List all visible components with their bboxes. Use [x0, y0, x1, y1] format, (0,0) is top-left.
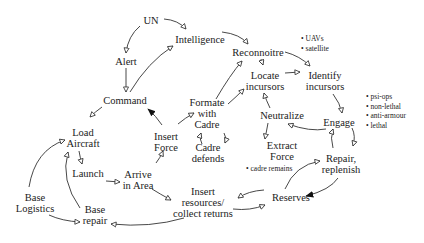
- edge-baserepair-load: [66, 152, 80, 208]
- node-repair-replenish: Repair, replenish: [322, 153, 361, 175]
- node-cadre-line2: defends: [192, 153, 225, 164]
- edge-un-intelligence: [164, 19, 186, 29]
- node-logistics-line1: Base: [16, 192, 55, 203]
- edge-formate-reconnoitre: [216, 61, 242, 99]
- edge-neutralize-extract: [265, 123, 268, 139]
- note-extract: • cadre remains: [246, 164, 292, 174]
- note-item: • lethal: [366, 121, 406, 131]
- edge-formate-locate: [228, 89, 244, 104]
- node-base-repair: Base repair: [83, 204, 107, 226]
- node-insert-resources: Insert resources/ collect returns: [173, 186, 233, 219]
- edge-command-intelligence: [130, 46, 173, 92]
- node-arrive-line2: in Area: [123, 180, 154, 191]
- node-reconnoitre: Reconnoitre: [232, 47, 283, 58]
- edge-neutralize-locate: [264, 93, 270, 108]
- node-load-line2: Aircraft: [66, 138, 99, 149]
- node-repair-line1: Repair,: [322, 153, 361, 164]
- edge-un-alert: [126, 26, 140, 53]
- node-formate-line3: Cadre: [190, 119, 225, 130]
- note-engage-options: • psi-ops • non-lethal • anti-armour • l…: [366, 92, 406, 130]
- node-repair-line2: replenish: [322, 164, 361, 175]
- edge-identify-engage: [333, 94, 342, 113]
- edge-engage-repair: [352, 128, 354, 146]
- node-neutralize: Neutralize: [260, 110, 304, 121]
- note-item: • satellite: [301, 44, 329, 54]
- node-load-line1: Load: [66, 127, 99, 138]
- node-insert-force-line1: Insert: [154, 131, 178, 142]
- node-extract-line1: Extract: [267, 140, 297, 151]
- edge-launch-arrive: [106, 181, 120, 182]
- edge-engage-neutralize: [288, 124, 326, 130]
- node-insert-force: Insert Force: [154, 131, 178, 153]
- edge-insert-resources-base-repair: [111, 218, 184, 225]
- edge-insertforce-command: [148, 109, 162, 125]
- node-arrive-in-area: Arrive in Area: [123, 169, 154, 191]
- node-reserves: Reserves: [272, 192, 310, 203]
- node-extract-force: Extract Force: [267, 140, 297, 162]
- edge-arrive-insert-resources: [152, 189, 171, 200]
- node-identify-incursors: Identify incursors: [306, 70, 345, 92]
- node-base-repair-line2: repair: [83, 215, 107, 226]
- node-command: Command: [103, 95, 147, 106]
- edge-logistics-load: [29, 140, 65, 187]
- edge-reconnoitre-identify: [285, 52, 310, 66]
- node-extract-line2: Force: [267, 151, 297, 162]
- edge-logistics-baserepair: [49, 215, 80, 222]
- edge-command-load: [90, 107, 102, 117]
- node-cadre-defends: Cadre defends: [192, 142, 225, 164]
- node-alert: Alert: [115, 56, 137, 67]
- node-engage: Engage: [323, 117, 355, 128]
- node-formate-with-cadre: Formate with Cadre: [190, 97, 225, 130]
- edge-load-launch: [79, 151, 82, 164]
- node-insert-resources-line2: resources/: [173, 197, 233, 208]
- node-arrive-line1: Arrive: [123, 169, 154, 180]
- node-identify-line2: incursors: [306, 81, 345, 92]
- process-flow-diagram: UN Intelligence Alert Command Reconnoitr…: [0, 0, 424, 243]
- node-locate-line2: incursors: [246, 81, 285, 92]
- node-formate-line1: Formate: [190, 97, 225, 108]
- node-insert-resources-line3: collect returns: [173, 208, 233, 219]
- node-launch: Launch: [72, 168, 104, 179]
- edge-repair-reserves: [306, 178, 338, 196]
- node-logistics-line2: Logistics: [16, 203, 55, 214]
- note-item: • non-lethal: [366, 102, 406, 112]
- node-insert-resources-line1: Insert: [173, 186, 233, 197]
- edge-intelligence-reconnoitre: [222, 32, 248, 44]
- edge-insert-resources-reserves: [233, 205, 265, 210]
- node-base-logistics: Base Logistics: [16, 192, 55, 214]
- note-item: • anti-armour: [366, 111, 406, 121]
- note-item: • UAVs: [301, 34, 329, 44]
- node-load-aircraft: Load Aircraft: [66, 127, 99, 149]
- node-cadre-line1: Cadre: [192, 142, 225, 153]
- node-locate-incursors: Locate incursors: [246, 70, 285, 92]
- node-base-repair-line1: Base: [83, 204, 107, 215]
- note-item: • psi-ops: [366, 92, 406, 102]
- note-recon-sources: • UAVs • satellite: [301, 34, 329, 53]
- edge-reconnoitre-locate: [261, 59, 263, 65]
- edge-repair-engage: [332, 129, 334, 148]
- node-formate-line2: with: [190, 108, 225, 119]
- node-identify-line1: Identify: [306, 70, 345, 81]
- node-intelligence: Intelligence: [175, 34, 225, 45]
- edge-locate-identify: [285, 72, 300, 73]
- node-un: UN: [143, 15, 158, 26]
- edge-reserves-insert-resources: [238, 190, 264, 198]
- node-locate-line1: Locate: [246, 70, 285, 81]
- node-insert-force-line2: Force: [154, 142, 178, 153]
